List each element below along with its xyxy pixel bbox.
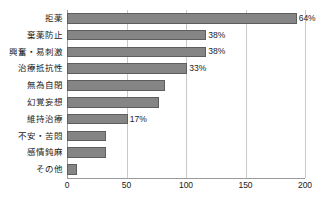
category-label: 維持治療 bbox=[27, 111, 63, 128]
x-axis-tick-labels: 050100150200 bbox=[67, 180, 305, 196]
bar bbox=[67, 63, 187, 74]
x-tick-label: 50 bbox=[122, 180, 131, 190]
bar-row: その他 bbox=[67, 161, 305, 178]
category-label: 無為自閉 bbox=[27, 77, 63, 94]
x-tick-label: 100 bbox=[179, 180, 193, 190]
bar-rows: 拒薬64%棄薬防止38%興奮・易刺激38%治療抵抗性33%無為自閉幻覚妄想維持治… bbox=[67, 10, 305, 178]
bar-row: 維持治療17% bbox=[67, 111, 305, 128]
bar-row: 不安・苦悶 bbox=[67, 128, 305, 145]
bar-value-label: 38% bbox=[206, 45, 225, 58]
bar bbox=[67, 131, 106, 142]
category-label: 幻覚妄想 bbox=[27, 94, 63, 111]
bar bbox=[67, 164, 77, 175]
bar-row: 棄薬防止38% bbox=[67, 27, 305, 44]
bar bbox=[67, 147, 106, 158]
x-tick-label: 200 bbox=[298, 180, 312, 190]
bar-row: 拒薬64% bbox=[67, 10, 305, 27]
bar-row: 興奮・易刺激38% bbox=[67, 44, 305, 61]
category-label: 興奮・易刺激 bbox=[9, 44, 63, 61]
bar bbox=[67, 13, 297, 24]
category-label: 棄薬防止 bbox=[27, 27, 63, 44]
bar bbox=[67, 30, 206, 41]
bar-value-label: 38% bbox=[206, 29, 225, 42]
bar-row: 幻覚妄想 bbox=[67, 94, 305, 111]
gridline-200 bbox=[305, 10, 306, 178]
category-label: 拒薬 bbox=[45, 10, 63, 27]
category-label: その他 bbox=[36, 161, 63, 178]
bar-value-label: 64% bbox=[297, 12, 316, 25]
x-axis-line bbox=[67, 178, 305, 179]
bar-row: 治療抵抗性33% bbox=[67, 60, 305, 77]
bar bbox=[67, 114, 128, 125]
plot-area: 拒薬64%棄薬防止38%興奮・易刺激38%治療抵抗性33%無為自閉幻覚妄想維持治… bbox=[67, 10, 305, 178]
x-tick-label: 0 bbox=[65, 180, 70, 190]
bar bbox=[67, 80, 165, 91]
bar-value-label: 33% bbox=[187, 62, 206, 75]
bar-row: 無為自閉 bbox=[67, 77, 305, 94]
bar bbox=[67, 47, 206, 58]
category-label: 感情鈍麻 bbox=[27, 144, 63, 161]
category-label: 治療抵抗性 bbox=[18, 60, 63, 77]
bar-chart-figure: 拒薬64%棄薬防止38%興奮・易刺激38%治療抵抗性33%無為自閉幻覚妄想維持治… bbox=[0, 0, 333, 207]
bar-row: 感情鈍麻 bbox=[67, 144, 305, 161]
bar-value-label: 17% bbox=[128, 113, 147, 126]
category-label: 不安・苦悶 bbox=[18, 128, 63, 145]
bar bbox=[67, 97, 159, 108]
x-tick-label: 150 bbox=[238, 180, 252, 190]
